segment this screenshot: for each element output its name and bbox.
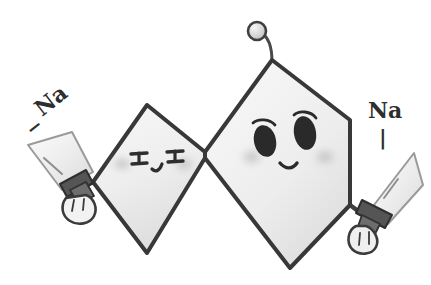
- left-face-left-eye-bottom: [132, 163, 147, 164]
- right-sword-tick-mark: |: [379, 125, 387, 150]
- antenna-ball: [248, 22, 266, 40]
- left-hand: [63, 195, 96, 224]
- right-hand: [349, 226, 378, 254]
- right-sword-na-label: Na: [368, 97, 402, 123]
- drawing-canvas: Na − Na |: [0, 0, 431, 285]
- left-face-right-eye-bottom: [168, 161, 183, 162]
- right-face-blush-right: [312, 147, 338, 167]
- right-hand-finger-line-1: [359, 233, 360, 245]
- left-hand-finger-line-2: [83, 199, 84, 210]
- character-illustration: Na − Na |: [0, 0, 431, 285]
